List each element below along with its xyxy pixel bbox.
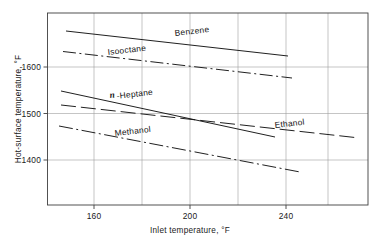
chart-figure: 1600 1500 1400 160 200 240 Inlet tempera… — [0, 0, 385, 240]
ytick-label-1500: 1500 — [22, 109, 42, 119]
x-axis-label: Inlet temperature, °F — [150, 226, 230, 235]
ytick-label-1400: 1400 — [22, 155, 42, 165]
ytick-label-1600: 1600 — [22, 62, 42, 72]
xtick-label-200: 200 — [183, 211, 198, 221]
y-axis-label: Hot-surface temperature, °F — [14, 55, 23, 163]
xtick-label-160: 160 — [87, 211, 102, 221]
hot-surface-temperature-line-chart: 1600 1500 1400 160 200 240 Inlet tempera… — [0, 0, 385, 240]
xtick-label-240: 240 — [279, 211, 294, 221]
x-axis-ticks — [94, 205, 286, 209]
y-axis-ticks — [44, 67, 48, 160]
